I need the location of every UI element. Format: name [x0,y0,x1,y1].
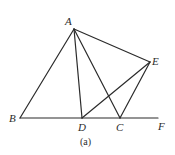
segment-ab [20,29,74,118]
segments [20,29,158,118]
label-f: F [157,120,165,132]
figure-caption: (a) [80,136,91,148]
label-c: C [116,121,124,133]
label-a: A [64,15,72,27]
label-d: D [77,121,86,133]
point-labels: A B D C E F [9,15,165,133]
label-e: E [151,55,159,67]
geometry-figure: A B D C E F (a) [0,0,175,155]
label-b: B [9,112,16,124]
segment-ae [74,29,150,62]
segment-ce [120,62,150,118]
